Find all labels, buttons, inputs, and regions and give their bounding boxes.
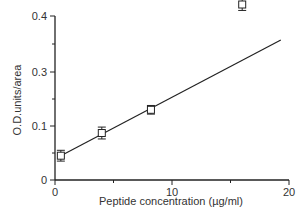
axes: 00.10.30.401020: [32, 10, 295, 198]
y-tick-label: 0.4: [32, 10, 47, 22]
square-marker-icon: [57, 152, 64, 159]
plot-area: [57, 0, 281, 161]
y-tick-label: 0: [41, 174, 47, 186]
data-point: [98, 127, 106, 139]
y-tick-label: 0.3: [32, 66, 47, 78]
data-point: [147, 105, 155, 114]
square-marker-icon: [98, 130, 105, 137]
y-axis-title: O.D.units/area: [11, 64, 23, 136]
fit-line: [61, 40, 281, 156]
data-point: [238, 0, 246, 10]
data-point: [57, 150, 65, 161]
square-marker-icon: [147, 106, 154, 113]
y-tick-label: 0.1: [32, 120, 47, 132]
x-tick-label: 20: [283, 186, 295, 198]
x-axis-title: Peptide concentration (µg/ml): [99, 195, 243, 207]
x-tick-label: 0: [52, 186, 58, 198]
square-marker-icon: [239, 1, 246, 8]
chart-plot: 00.10.30.401020 O.D.units/area Peptide c…: [0, 0, 306, 223]
